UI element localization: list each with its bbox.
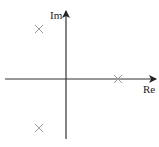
pole-upper-left-x-icon — [35, 25, 43, 33]
imaginary-axis-label: Im — [50, 9, 63, 21]
real-axis-label: Re — [143, 83, 155, 95]
pole-lower-left-x-icon — [35, 124, 43, 132]
pole-zero-plot: Im Re — [0, 0, 159, 147]
